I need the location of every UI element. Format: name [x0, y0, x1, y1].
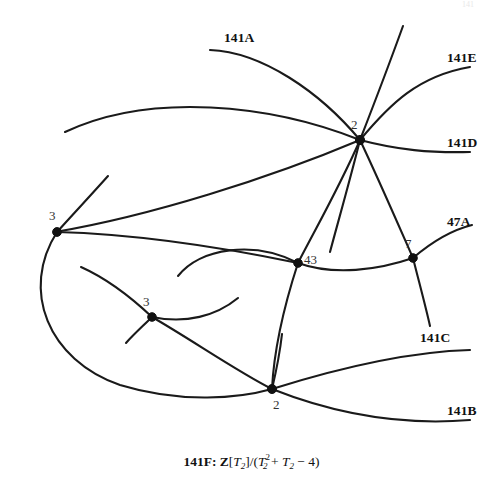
- node-lower-3: [148, 313, 157, 322]
- node-central-2: [355, 135, 364, 144]
- caption-slash: /(: [250, 454, 258, 469]
- branch-label-141d: 141D: [447, 136, 477, 150]
- dual-graph-diagram: [0, 0, 503, 493]
- branch-label-47a: 47A: [447, 215, 471, 229]
- curve-lower3-hook: [81, 267, 152, 317]
- curve-central-down-left-steep: [330, 140, 360, 252]
- caption-plus: +: [268, 454, 282, 469]
- curve-141E: [360, 67, 470, 140]
- node-bottom-2: [268, 385, 277, 394]
- multiplicity-label-lower-3: 3: [143, 295, 150, 308]
- caption-id: 141F:: [183, 454, 216, 469]
- curve-left3-big-sweep: [41, 232, 272, 398]
- curve-central-to-43: [298, 140, 360, 263]
- curve-central-to-left-sweep: [55, 140, 360, 232]
- curve-group: [41, 26, 472, 421]
- node-left-3: [53, 228, 62, 237]
- node-right-7: [409, 254, 418, 263]
- curve-bottom2-141C: [272, 350, 470, 389]
- branch-label-141e: 141E: [447, 51, 477, 65]
- branch-label-141b: 141B: [447, 404, 477, 418]
- curve-left3-to-43-line: [57, 232, 298, 263]
- figure-container: 141 141A141E141D47A141C141B 2343732 141F…: [0, 0, 503, 493]
- branch-label-141c: 141C: [420, 331, 450, 345]
- multiplicity-label-bottom-2: 2: [273, 398, 280, 411]
- curve-141A: [210, 50, 360, 140]
- node-mid-43: [294, 259, 303, 268]
- curve-lower3-right-hump: [152, 298, 238, 320]
- caption-ring: Z: [220, 454, 229, 469]
- multiplicity-label-mid-43: 43: [304, 253, 317, 266]
- multiplicity-label-left-3: 3: [49, 209, 56, 222]
- caption-generator: T: [233, 454, 241, 469]
- curve-bottom2-141B: [272, 389, 470, 421]
- branch-label-141a: 141A: [224, 31, 254, 45]
- curve-lower3-to-bottom2: [152, 317, 272, 389]
- curve-43-left-hump: [178, 250, 298, 276]
- curve-47A: [413, 225, 472, 258]
- curve-lower3-down-left: [126, 317, 152, 343]
- node-group: [53, 135, 418, 393]
- caption-tail: − 4): [294, 454, 320, 469]
- multiplicity-label-right-7: 7: [405, 237, 412, 250]
- curve-central-up-right: [360, 26, 403, 140]
- curve-long-top-arc: [65, 107, 360, 140]
- figure-caption: 141F: Z[T2]/(T22 + T2 − 4): [0, 452, 503, 471]
- curve-7-down-right: [413, 258, 430, 326]
- multiplicity-label-central-2: 2: [351, 118, 358, 131]
